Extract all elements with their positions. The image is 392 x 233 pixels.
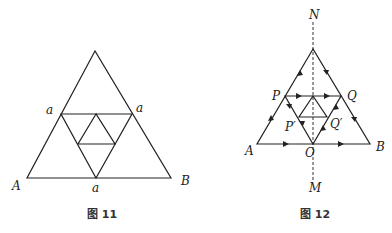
- label-a-bottom: a: [92, 181, 99, 195]
- arrow-AO: [283, 141, 289, 147]
- arrow-OQprime: [320, 125, 326, 131]
- label-P-prime: P′: [284, 120, 296, 134]
- label-Q-prime: Q′: [330, 117, 343, 131]
- arrow-PQ-right: [324, 93, 330, 99]
- label-B: B: [375, 140, 385, 154]
- middle-inverted-triangle: [61, 114, 132, 178]
- label-a-right: a: [136, 101, 143, 115]
- label-N: N: [308, 8, 320, 22]
- arrow-PQ-left: [296, 93, 302, 99]
- label-P: P: [271, 89, 281, 103]
- arrow-left-upper: [297, 70, 303, 76]
- label-a-left: a: [46, 103, 53, 117]
- arrow-OB: [338, 141, 344, 147]
- caption-figure-11: 图 11: [87, 208, 117, 221]
- figures-canvas: A B a a a 图 11 N M A B P: [0, 0, 392, 233]
- label-B: B: [180, 174, 190, 188]
- label-O: O: [305, 146, 315, 160]
- caption-figure-12: 图 12: [300, 208, 330, 221]
- label-A: A: [244, 144, 254, 158]
- figure-11: A B a a a 图 11: [11, 51, 190, 221]
- label-M: M: [308, 181, 322, 195]
- figure-12: N M A B P Q P′ Q′ O 图 12: [244, 8, 385, 221]
- label-A: A: [11, 179, 21, 193]
- label-Q: Q: [347, 89, 357, 103]
- inner-triangle: [78, 114, 115, 144]
